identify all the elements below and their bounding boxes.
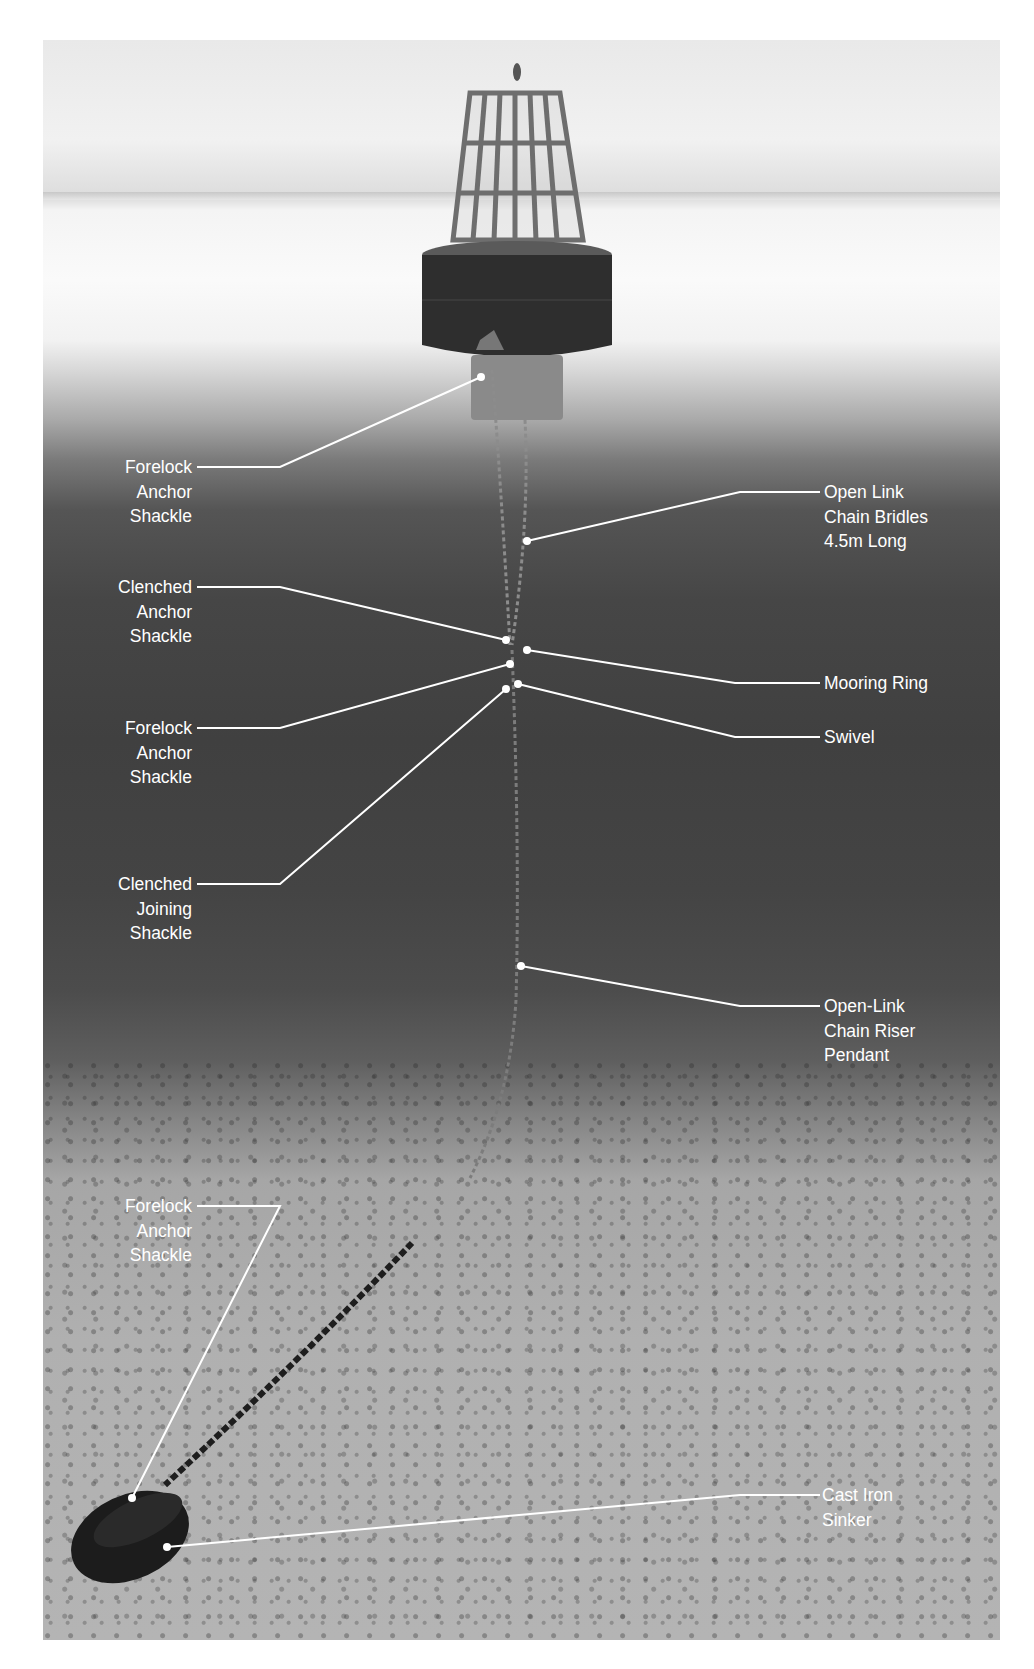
label-line: Chain Riser	[824, 1019, 1034, 1044]
label-swivel: Swivel	[824, 725, 1034, 750]
label-line: Forelock	[42, 716, 192, 741]
label-cast-iron-sinker: Cast Iron Sinker	[822, 1483, 1034, 1532]
label-forelock-anchor-shackle-mid: Forelock Anchor Shackle	[42, 716, 192, 790]
label-clenched-anchor-shackle: Clenched Anchor Shackle	[42, 575, 192, 649]
label-forelock-anchor-shackle-top: Forelock Anchor Shackle	[42, 455, 192, 529]
leader-lines	[132, 377, 820, 1547]
cast-iron-sinker-icon	[56, 1473, 204, 1602]
label-line: Sinker	[822, 1508, 1034, 1533]
label-line: Shackle	[42, 1243, 192, 1268]
label-open-link-chain-bridles: Open Link Chain Bridles 4.5m Long	[824, 480, 1034, 554]
label-line: 4.5m Long	[824, 529, 1034, 554]
ground-chain-icon	[165, 1243, 412, 1485]
label-clenched-joining-shackle: Clenched Joining Shackle	[42, 872, 192, 946]
label-line: Anchor	[42, 480, 192, 505]
label-line: Chain Bridles	[824, 505, 1034, 530]
label-line: Forelock	[42, 1194, 192, 1219]
label-line: Anchor	[42, 741, 192, 766]
label-line: Forelock	[42, 455, 192, 480]
label-line: Open-Link	[824, 994, 1034, 1019]
leader-dots	[128, 373, 531, 1551]
label-line: Joining	[42, 897, 192, 922]
label-line: Mooring Ring	[824, 671, 1034, 696]
label-line: Pendant	[824, 1043, 1034, 1068]
label-line: Cast Iron	[822, 1483, 1034, 1508]
label-line: Clenched	[42, 872, 192, 897]
buoy-icon	[422, 63, 612, 420]
label-line: Shackle	[42, 765, 192, 790]
label-line: Clenched	[42, 575, 192, 600]
label-forelock-anchor-shackle-bottom: Forelock Anchor Shackle	[42, 1194, 192, 1268]
label-line: Open Link	[824, 480, 1034, 505]
label-line: Shackle	[42, 624, 192, 649]
label-line: Anchor	[42, 1219, 192, 1244]
label-open-link-chain-riser-pendant: Open-Link Chain Riser Pendant	[824, 994, 1034, 1068]
label-line: Shackle	[42, 504, 192, 529]
label-mooring-ring: Mooring Ring	[824, 671, 1034, 696]
diagram-overlay	[0, 0, 1034, 1669]
label-line: Swivel	[824, 725, 1034, 750]
chain-riser-icon	[470, 650, 517, 1178]
label-line: Shackle	[42, 921, 192, 946]
label-line: Anchor	[42, 600, 192, 625]
